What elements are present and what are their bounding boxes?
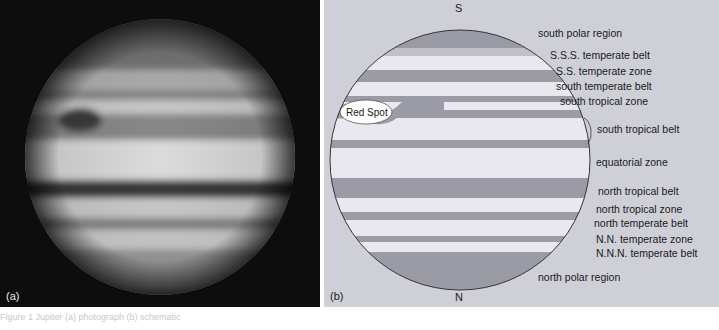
red-spot-label: Red Spot	[346, 108, 388, 118]
zone-label-sss-temperate-belt: S.S.S. temperate belt	[550, 50, 650, 61]
zone-label-south-tropical-belt: south tropical belt	[597, 124, 679, 135]
zone-label-south-temperate-belt: south temperate belt	[556, 81, 652, 92]
zone-label-equatorial-zone: equatorial zone	[596, 157, 668, 168]
jupiter-photo-panel: (a)	[0, 0, 320, 307]
zone-label-ss-temperate-zone: S.S. temperate zone	[556, 66, 652, 77]
panel-label-a: (a)	[6, 290, 19, 302]
zone-label-north-tropical-belt: north tropical belt	[598, 186, 679, 197]
zone-label-south-polar-region: south polar region	[538, 28, 622, 39]
zone-label-north-temperate-belt: north temperate belt	[594, 218, 688, 229]
jupiter-schematic	[324, 0, 719, 307]
jupiter-schematic-panel: S N Red Spot south polar region S.S.S. t…	[324, 0, 719, 307]
figure-caption: Figure 1 Jupiter (a) photograph (b) sche…	[0, 312, 181, 322]
zone-label-south-tropical-zone: south tropical zone	[560, 96, 648, 107]
pole-label-north: N	[455, 291, 463, 303]
zone-label-nn-temperate-zone: N.N. temperate zone	[596, 234, 693, 245]
zone-label-north-polar-region: north polar region	[538, 272, 620, 283]
jupiter-photo	[0, 0, 320, 307]
zone-label-north-tropical-zone: north tropical zone	[596, 204, 682, 215]
zone-label-nnn-temperate-belt: N.N.N. temperate belt	[596, 248, 698, 259]
pole-label-south: S	[455, 2, 462, 14]
panel-label-b: (b)	[330, 290, 343, 302]
